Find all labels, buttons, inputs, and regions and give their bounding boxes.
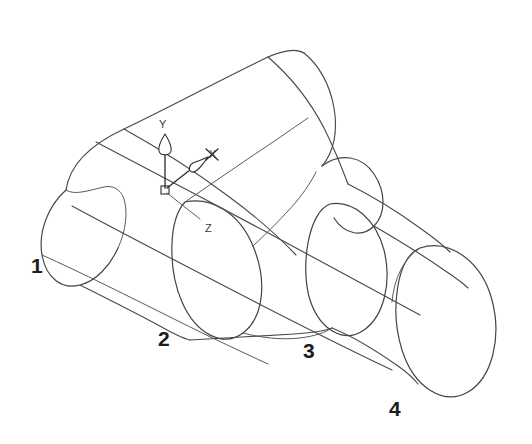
- ucs-z-axis-label: Z: [205, 222, 212, 234]
- section-1-cap-profile: [41, 190, 118, 286]
- rail-bottom-front: [80, 285, 190, 340]
- ucs-z-axis-shaft: [167, 193, 200, 219]
- ucs-axis-indicator: Y X Z: [159, 118, 218, 234]
- callout-label-2: 2: [158, 327, 170, 350]
- section-2-crest-join: [253, 172, 316, 246]
- section-4-profile: [396, 246, 496, 397]
- rail-lower-back: [42, 255, 268, 364]
- rail-3-to-4-top: [348, 184, 450, 252]
- wireframe-viewport: Y X Z 1 2 3 4: [0, 0, 532, 444]
- ucs-x-axis-label: X: [209, 148, 217, 160]
- section-2-profile: [172, 201, 262, 339]
- callout-label-4: 4: [389, 397, 401, 420]
- loft-wireframe: [41, 50, 496, 397]
- rail-upper-branch-lower: [268, 57, 348, 184]
- rail-diagonal-lower: [72, 206, 392, 370]
- upper-lobe-profile: [322, 158, 383, 233]
- callout-label-1: 1: [31, 254, 43, 277]
- waist-lower-silhouette: [243, 328, 332, 339]
- ucs-y-axis-label: Y: [159, 118, 167, 130]
- section-3-profile: [306, 203, 387, 335]
- drawing-canvas: Y X Z 1 2 3 4: [0, 0, 532, 444]
- rail-upper-branch: [304, 53, 336, 166]
- rail-3-to-4-upper2: [374, 226, 468, 288]
- rail-bottom-to-4: [332, 328, 418, 384]
- callout-label-3: 3: [303, 339, 315, 362]
- ucs-y-axis-arrowhead: [159, 134, 172, 155]
- rail-top-back: [66, 50, 304, 190]
- ucs-x-axis-arrowhead: [189, 157, 208, 172]
- section-1-cap-seam: [66, 187, 126, 249]
